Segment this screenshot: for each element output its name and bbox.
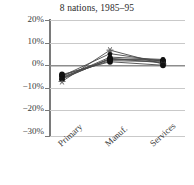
data-point-marker <box>60 76 65 81</box>
series-line <box>62 50 163 81</box>
plot-area <box>50 20 185 136</box>
y-tick-label-neg20: −20% <box>0 103 44 113</box>
data-point-marker <box>160 62 166 68</box>
y-tick-label-0: 0% <box>0 58 44 68</box>
data-point-marker <box>108 57 113 62</box>
y-tick-label-neg10: −10% <box>0 81 44 91</box>
data-point-marker <box>108 51 113 56</box>
y-axis-labels: 20% 10% 0% −10% −20% −30% <box>0 0 44 185</box>
chart-figure: 8 nations, 1985–95 20% 10% 0% −10% −20% … <box>0 0 194 185</box>
y-tick-label-neg30: −30% <box>0 126 44 136</box>
y-tick-label-10: 10% <box>0 36 44 46</box>
series-layer <box>50 20 185 136</box>
y-tick-label-20: 20% <box>0 14 44 24</box>
data-point-marker <box>161 58 166 63</box>
